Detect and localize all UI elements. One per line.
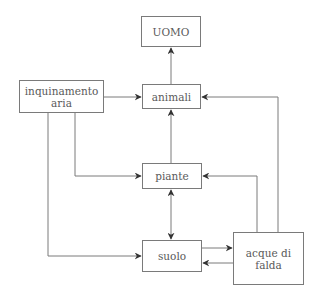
node-inquinamento-aria: inquinamento aria — [19, 80, 104, 113]
node-uomo: UOMO — [141, 16, 201, 47]
node-suolo-label: suolo — [158, 250, 186, 262]
edge-acque-to-animali — [202, 97, 278, 232]
node-inquinamento-aria-line1: inquinamento — [25, 85, 98, 97]
node-uomo-label: UOMO — [153, 26, 190, 38]
edge-inquinamento-to-piante — [75, 113, 141, 176]
node-animali: animali — [142, 84, 201, 109]
node-suolo: suolo — [142, 240, 202, 272]
node-acque-di-falda-line2: falda — [255, 259, 282, 271]
node-piante-label: piante — [155, 170, 189, 182]
node-acque-di-falda-line1: acque di — [246, 247, 291, 259]
node-acque-di-falda: acque di falda — [233, 232, 304, 285]
edge-inquinamento-to-suolo — [48, 113, 141, 256]
edge-acque-to-piante — [203, 176, 257, 232]
node-inquinamento-aria-line2: aria — [51, 97, 72, 109]
node-piante: piante — [142, 163, 202, 189]
node-animali-label: animali — [152, 91, 191, 103]
